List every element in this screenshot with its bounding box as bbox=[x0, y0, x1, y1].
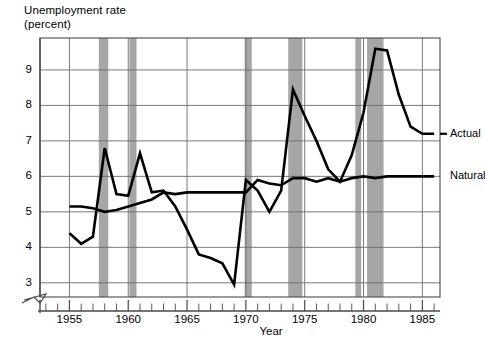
series-label-natural: Natural bbox=[450, 169, 485, 181]
y-axis-break-icon bbox=[22, 294, 46, 303]
recession-band bbox=[99, 38, 108, 297]
x-tick-label: 1965 bbox=[167, 313, 207, 325]
y-tick-label: 9 bbox=[14, 63, 32, 75]
y-tick-label: 8 bbox=[14, 98, 32, 110]
x-axis-ticks-group bbox=[46, 300, 434, 311]
x-tick-label: 1970 bbox=[226, 313, 266, 325]
recession-band bbox=[355, 38, 361, 297]
y-tick-label: 7 bbox=[14, 134, 32, 146]
x-axis-title: Year bbox=[241, 325, 301, 337]
series-label-actual: Actual bbox=[450, 127, 481, 139]
recession-bands-group bbox=[99, 38, 384, 297]
x-tick-label: 1955 bbox=[49, 313, 89, 325]
chart-axis-title: Unemployment rate (percent) bbox=[24, 4, 126, 31]
x-tick-label: 1975 bbox=[285, 313, 325, 325]
x-tick-label: 1980 bbox=[344, 313, 384, 325]
y-tick-label: 3 bbox=[14, 276, 32, 288]
y-tick-label: 4 bbox=[14, 240, 32, 252]
x-tick-label: 1960 bbox=[108, 313, 148, 325]
recession-band bbox=[288, 38, 302, 297]
y-tick-label: 6 bbox=[14, 169, 32, 181]
x-tick-label: 1985 bbox=[402, 313, 442, 325]
y-tick-label: 5 bbox=[14, 205, 32, 217]
